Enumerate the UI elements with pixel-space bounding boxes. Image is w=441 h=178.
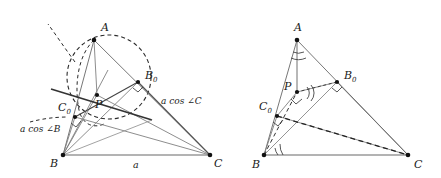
label-B-right: B [251, 158, 260, 171]
label-A: A [100, 21, 109, 34]
vertex-dot-B [61, 153, 66, 158]
vertex-dot-B0 [136, 80, 140, 84]
vertex-dot-B0-right [335, 80, 339, 84]
vertex-dot-B-right [262, 153, 267, 158]
vertex-dot-C0-right [275, 114, 279, 118]
figure-canvas: A B C P B0 C0 a a cos ∠C a cos ∠B [0, 0, 441, 178]
vertex-dot-A-right [295, 38, 300, 43]
label-P-right: P [283, 80, 292, 93]
side-a-label: a [133, 159, 139, 170]
a-cos-angle-C-label: a cos ∠C [161, 96, 202, 106]
vertex-dot-C-right [406, 153, 411, 158]
vertex-dot-P [95, 93, 99, 97]
geometry-figure: A B C P B0 C0 a a cos ∠C a cos ∠B [0, 0, 441, 178]
label-B: B [49, 157, 58, 170]
figure-background [0, 0, 441, 178]
label-C-right: C [414, 158, 423, 171]
vertex-dot-P-right [295, 90, 299, 94]
label-A-right: A [293, 21, 302, 34]
vertex-dot-C [208, 153, 213, 158]
vertex-dot-C0 [73, 115, 77, 119]
label-P: P [94, 98, 103, 111]
label-C: C [214, 157, 223, 170]
a-cos-angle-B-label: a cos ∠B [20, 124, 61, 134]
vertex-dot-A [92, 38, 97, 43]
